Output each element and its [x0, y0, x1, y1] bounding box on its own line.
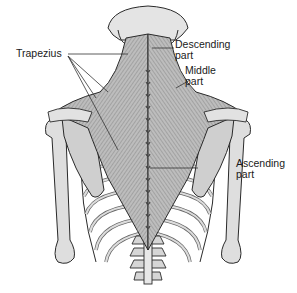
label-trapezius: Trapezius [16, 48, 62, 59]
label-middle-part: Middle part [185, 65, 216, 87]
label-ascending-part: Ascending part [236, 158, 285, 180]
anatomy-illustration [0, 0, 297, 293]
trapezius-diagram: Trapezius Descending part Middle part As… [0, 0, 297, 293]
label-descending-part: Descending part [175, 39, 230, 61]
